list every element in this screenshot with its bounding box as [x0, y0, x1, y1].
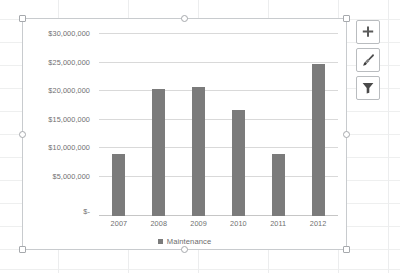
paintbrush-icon — [361, 53, 376, 68]
plot-area[interactable] — [99, 33, 338, 216]
x-axis-tick-label: 2007 — [99, 219, 139, 228]
y-axis-tick-label: $5,000,000 — [27, 171, 95, 180]
selection-handle-middle-left[interactable] — [19, 131, 26, 138]
bar-slot — [258, 33, 298, 216]
x-axis-tick-label: 2010 — [218, 219, 258, 228]
bar-2008[interactable] — [152, 89, 165, 216]
selection-handle-bottom-left[interactable] — [19, 246, 26, 253]
y-axis-tick-label: $25,000,000 — [27, 57, 95, 66]
bar-2012[interactable] — [312, 64, 325, 216]
bar-2010[interactable] — [232, 110, 245, 216]
y-axis: $30,000,000 $25,000,000 $20,000,000 $15,… — [27, 19, 95, 249]
chart-plot-wrapper: $30,000,000 $25,000,000 $20,000,000 $15,… — [23, 19, 346, 249]
selection-handle-bottom-center[interactable] — [181, 246, 188, 253]
selection-handle-bottom-right[interactable] — [343, 246, 350, 253]
chart-tools-flyout — [356, 20, 382, 100]
bar-slot — [218, 33, 258, 216]
bar-2007[interactable] — [112, 154, 125, 216]
legend-label: Maintenance — [167, 237, 212, 246]
x-axis-tick-label: 2011 — [258, 219, 298, 228]
x-axis-tick-label: 2012 — [298, 219, 338, 228]
x-axis-tick-label: 2009 — [179, 219, 219, 228]
selection-handle-top-left[interactable] — [19, 15, 26, 22]
chart-object[interactable]: $30,000,000 $25,000,000 $20,000,000 $15,… — [22, 18, 347, 250]
y-axis-tick-label: $10,000,000 — [27, 143, 95, 152]
plus-icon — [361, 25, 375, 39]
y-axis-tick-label: $- — [27, 207, 95, 216]
bar-2011[interactable] — [272, 154, 285, 216]
bar-slot — [139, 33, 179, 216]
bar-slot — [298, 33, 338, 216]
selection-handle-middle-right[interactable] — [343, 131, 350, 138]
selection-handle-top-right[interactable] — [343, 15, 350, 22]
bar-2009[interactable] — [192, 87, 205, 216]
chart-styles-button[interactable] — [356, 48, 380, 72]
funnel-icon — [361, 81, 375, 95]
y-axis-tick-label: $15,000,000 — [27, 114, 95, 123]
x-axis-tick-label: 2008 — [139, 219, 179, 228]
bar-series-maintenance[interactable] — [99, 33, 338, 216]
y-axis-tick-label: $20,000,000 — [27, 86, 95, 95]
y-axis-tick-label: $30,000,000 — [27, 29, 95, 38]
x-axis: 2007 2008 2009 2010 2011 2012 — [99, 219, 338, 228]
chart-filters-button[interactable] — [356, 76, 380, 100]
bar-slot — [179, 33, 219, 216]
chart-elements-button[interactable] — [356, 20, 380, 44]
selection-handle-top-center[interactable] — [181, 15, 188, 22]
chart-legend[interactable]: Maintenance — [23, 237, 346, 246]
legend-swatch-icon — [158, 239, 163, 244]
bar-slot — [99, 33, 139, 216]
